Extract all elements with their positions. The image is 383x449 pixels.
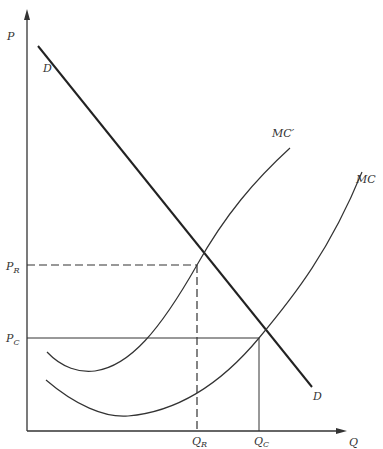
x-axis-label: Q bbox=[349, 436, 358, 449]
x-axis-arrow-icon bbox=[336, 428, 347, 434]
q-c-label: QC bbox=[254, 435, 269, 449]
mc-label: MC bbox=[355, 173, 376, 186]
y-axis-arrow-icon bbox=[24, 9, 30, 20]
demand-label-bottom: D bbox=[312, 390, 322, 403]
mc-curve bbox=[46, 172, 362, 416]
demand-curve bbox=[38, 46, 312, 387]
q-r-label: QR bbox=[192, 435, 207, 449]
p-c-label: PC bbox=[5, 332, 20, 347]
mc-prime-label: MC′ bbox=[271, 127, 295, 140]
demand-label-top: D bbox=[42, 62, 52, 75]
supply-demand-chart: P Q D D MC′ MC PR PC QR QC bbox=[0, 0, 383, 449]
p-r-label: PR bbox=[5, 260, 19, 275]
y-axis-label: P bbox=[6, 30, 15, 43]
